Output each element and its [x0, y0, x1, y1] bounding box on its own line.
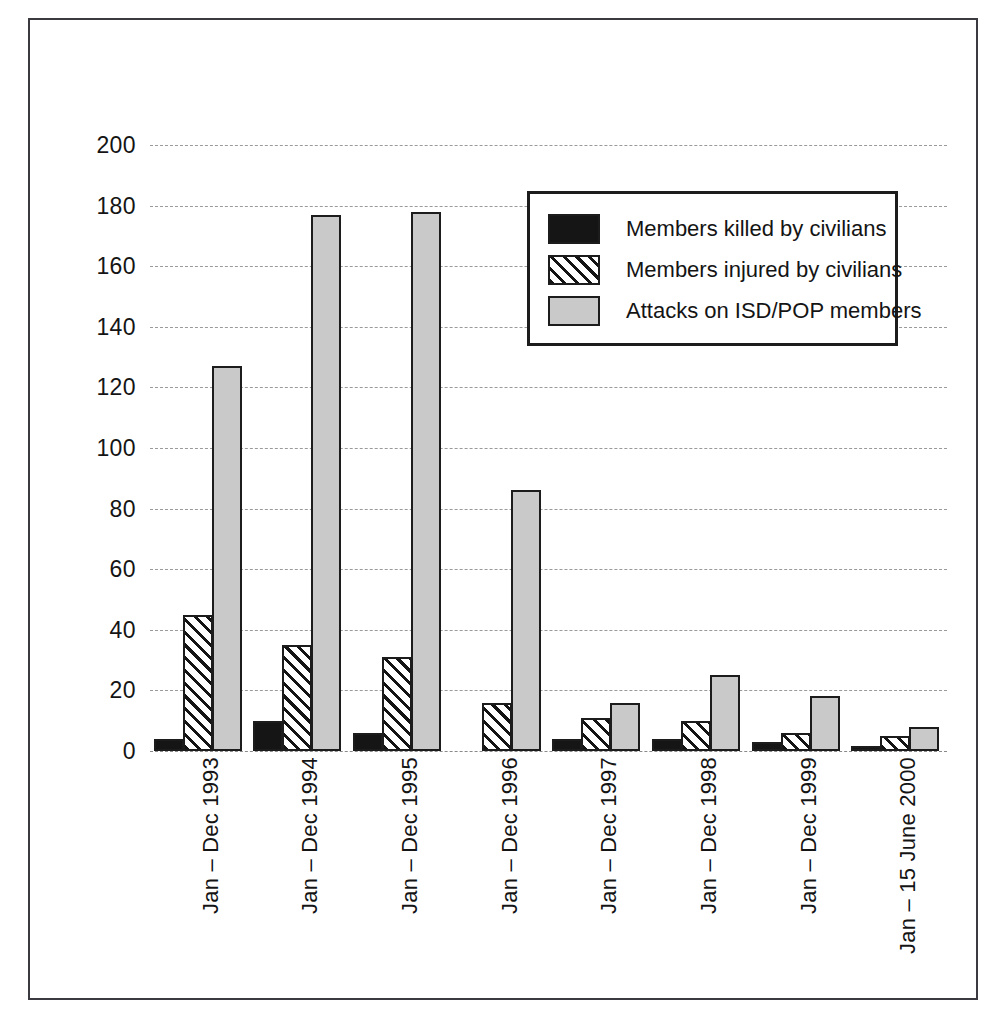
legend-label-attacks: Attacks on ISD/POP members	[626, 298, 921, 324]
y-axis-tick-label: 60	[110, 556, 136, 583]
y-axis-tick-label: 80	[110, 495, 136, 522]
y-axis-tick-label: 120	[96, 374, 136, 401]
bar-killed	[552, 739, 582, 751]
bar-attacks	[810, 696, 840, 751]
legend-item-killed: Members killed by civilians	[548, 208, 895, 249]
x-axis-tick-labels: Jan – Dec 1993Jan – Dec 1994Jan – Dec 19…	[150, 757, 947, 1007]
bar-injured	[581, 718, 611, 751]
bar-injured	[183, 615, 213, 751]
bar-injured	[880, 736, 910, 751]
figure-frame: 200180160140120100806040200 Jan – Dec 19…	[28, 18, 978, 1000]
bar-injured	[282, 645, 312, 751]
bar-injured	[681, 721, 711, 751]
bar-killed	[652, 739, 682, 751]
bar-injured	[781, 733, 811, 751]
x-axis-tick-label: Jan – Dec 1998	[696, 757, 722, 914]
x-axis-tick-label: Jan – Dec 1995	[397, 757, 423, 914]
y-axis-tick-label: 40	[110, 616, 136, 643]
bar-attacks	[311, 215, 341, 751]
legend-item-injured: Members injured by civilians	[548, 249, 895, 290]
bar-injured	[382, 657, 412, 751]
bar-injured	[482, 703, 512, 751]
x-axis-tick-label: Jan – Dec 1997	[596, 757, 622, 914]
x-axis-tick-label: Jan – Dec 1994	[297, 757, 323, 914]
x-axis-tick-label: Jan – 15 June 2000	[895, 757, 921, 954]
bar-attacks	[909, 727, 939, 751]
legend-swatch-attacks-icon	[548, 296, 600, 326]
bar-group	[253, 145, 341, 751]
bar-killed	[253, 721, 283, 751]
legend-swatch-injured-icon	[548, 255, 600, 285]
legend-label-injured: Members injured by civilians	[626, 257, 902, 283]
bar-killed	[752, 742, 782, 751]
bar-group	[154, 145, 242, 751]
legend-swatch-killed-icon	[548, 214, 600, 244]
x-axis-tick-label: Jan – Dec 1996	[497, 757, 523, 914]
y-axis-tick-label: 0	[123, 738, 136, 765]
y-axis-tick-label: 20	[110, 677, 136, 704]
bar-attacks	[710, 675, 740, 751]
bar-killed	[851, 746, 881, 751]
y-axis-tick-label: 180	[96, 192, 136, 219]
bar-attacks	[610, 703, 640, 751]
bar-group	[353, 145, 441, 751]
y-axis-tick-label: 140	[96, 313, 136, 340]
bar-killed	[154, 739, 184, 751]
y-axis-tick-label: 100	[96, 435, 136, 462]
chart-legend: Members killed by civilians Members inju…	[527, 191, 898, 346]
x-axis-tick-label: Jan – Dec 1993	[198, 757, 224, 914]
x-axis-tick-label: Jan – Dec 1999	[796, 757, 822, 914]
bar-attacks	[411, 212, 441, 751]
y-axis-tick-label: 160	[96, 253, 136, 280]
legend-item-attacks: Attacks on ISD/POP members	[548, 290, 895, 331]
bar-attacks	[511, 490, 541, 751]
gridline	[150, 751, 947, 752]
bar-attacks	[212, 366, 242, 751]
y-axis-tick-label: 200	[96, 132, 136, 159]
legend-label-killed: Members killed by civilians	[626, 216, 886, 242]
bar-killed	[353, 733, 383, 751]
